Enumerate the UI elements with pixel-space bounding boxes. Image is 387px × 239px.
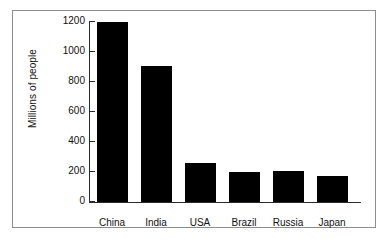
chart-figure: Millions of people 020040060080010001200… <box>12 10 376 228</box>
y-tick-label: 200 <box>68 165 85 176</box>
plot-area: ChinaIndiaUSABrazilRussiaJapan <box>90 22 358 202</box>
bar-group: Russia <box>266 22 310 202</box>
bar <box>141 66 172 203</box>
y-tick-label: 400 <box>68 135 85 146</box>
bar-group: USA <box>178 22 222 202</box>
y-tick-label: 0 <box>79 195 85 206</box>
bar <box>229 172 260 202</box>
x-tick-label: Japan <box>302 217 362 228</box>
y-tick-label: 1000 <box>63 45 85 56</box>
y-tick-label: 600 <box>68 105 85 116</box>
x-axis-line <box>89 202 361 203</box>
bar <box>185 163 216 202</box>
bar-group: Brazil <box>222 22 266 202</box>
bar <box>317 176 348 202</box>
y-tick-label: 800 <box>68 75 85 86</box>
y-tick-label: 1200 <box>63 15 85 26</box>
bar-group: India <box>134 22 178 202</box>
bar-group: Japan <box>310 22 354 202</box>
bar-group: China <box>90 22 134 202</box>
y-axis-label: Millions of people <box>27 34 38 144</box>
bar <box>97 22 128 202</box>
bar <box>273 171 304 202</box>
